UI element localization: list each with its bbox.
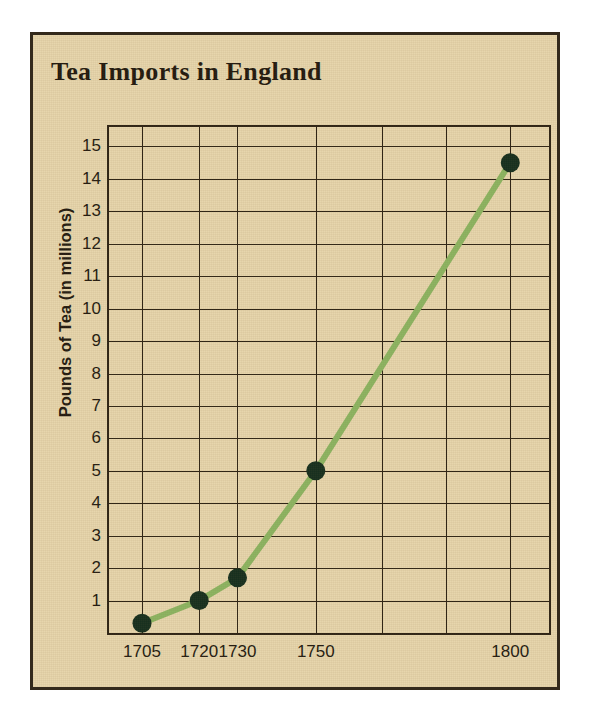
y-axis-tick-label: 4: [92, 493, 101, 513]
y-axis-tick-label: 6: [92, 428, 101, 448]
x-axis-tick-label: 1750: [297, 642, 335, 662]
y-axis-tick-label: 13: [82, 201, 101, 221]
series-line: [142, 163, 510, 624]
y-axis-tick-label: 3: [92, 526, 101, 546]
y-axis-tick-label: 10: [82, 299, 101, 319]
y-axis-tick-label: 14: [82, 169, 101, 189]
chart-title: Tea Imports in England: [51, 57, 322, 87]
data-point-marker: [501, 153, 520, 172]
data-series-line: [109, 127, 549, 633]
y-axis-tick-label: 11: [83, 266, 101, 286]
data-point-marker: [190, 591, 209, 610]
y-axis-label: Pounds of Tea (in millions): [56, 163, 75, 463]
x-axis-tick-label: 1730: [219, 642, 257, 662]
y-axis-tick-label: 7: [92, 396, 101, 416]
y-axis-tick-label: 9: [92, 331, 101, 351]
plot-area: 123456789101112131415 170517201730175018…: [107, 125, 551, 635]
y-axis-tick-label: 1: [92, 591, 101, 611]
x-axis-tick-label: 1800: [491, 642, 529, 662]
y-axis-tick-label: 2: [92, 558, 101, 578]
x-axis-tick-label: 1705: [123, 642, 161, 662]
y-axis-tick-label: 8: [92, 364, 101, 384]
data-point-marker: [133, 614, 152, 633]
y-axis-tick-label: 12: [82, 234, 101, 254]
x-axis-tick-label: 1720: [180, 642, 218, 662]
data-point-marker: [228, 568, 247, 587]
y-axis-tick-label: 15: [82, 136, 101, 156]
y-axis-tick-label: 5: [92, 461, 101, 481]
data-point-marker: [306, 461, 325, 480]
chart-figure: Tea Imports in England Pounds of Tea (in…: [30, 32, 560, 690]
